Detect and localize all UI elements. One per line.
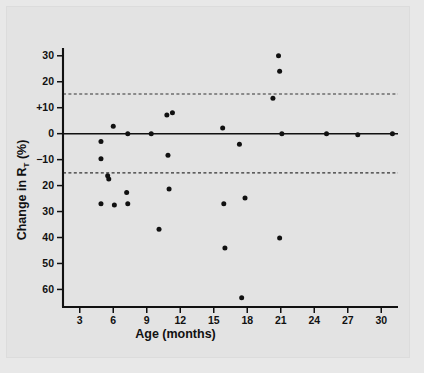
data-point: [220, 125, 225, 130]
data-point: [390, 131, 395, 136]
x-tick-label: 18: [241, 314, 253, 326]
data-point: [221, 201, 226, 206]
y-tick-label: 0: [48, 127, 54, 139]
y-axis-title-main: Change in R: [15, 167, 29, 240]
x-axis-title: Age (months): [135, 327, 216, 341]
data-point: [124, 190, 129, 195]
y-tick-label: 30: [42, 205, 54, 217]
y-tick-label: 40: [42, 231, 54, 243]
data-point: [164, 112, 169, 117]
x-tick-label: 3: [77, 314, 83, 326]
x-axis-title-text: Age (months): [135, 327, 216, 341]
data-point: [125, 201, 130, 206]
y-tick-label: 50: [42, 257, 54, 269]
data-point: [270, 96, 275, 101]
data-point: [111, 124, 116, 129]
data-point: [277, 69, 282, 74]
data-point: [239, 295, 244, 300]
x-tick-label: 24: [308, 314, 320, 326]
plot-svg: 3020+100−10203040506036912151821242730 A…: [0, 0, 424, 373]
data-point: [170, 110, 175, 115]
data-point: [165, 153, 170, 158]
data-point: [98, 139, 103, 144]
x-tick-label: 12: [174, 314, 186, 326]
data-point: [324, 131, 329, 136]
data-point: [222, 245, 227, 250]
chart-page: 3020+100−10203040506036912151821242730 A…: [0, 0, 424, 373]
data-points: [98, 53, 394, 300]
scatter-plot: 3020+100−10203040506036912151821242730 A…: [0, 0, 424, 373]
data-point: [112, 203, 117, 208]
data-point: [149, 131, 154, 136]
x-tick-label: 9: [144, 314, 150, 326]
data-point: [237, 142, 242, 147]
reference-lines: [63, 94, 398, 173]
data-point: [98, 201, 103, 206]
data-point: [98, 156, 103, 161]
y-tick-label: −10: [36, 153, 54, 165]
x-tick-label: 15: [208, 314, 220, 326]
x-tick-label: 6: [110, 314, 116, 326]
data-point: [277, 236, 282, 241]
data-point: [167, 186, 172, 191]
data-point: [106, 177, 111, 182]
y-tick-label: 20: [42, 179, 54, 191]
data-point: [276, 53, 281, 58]
x-tick-label: 27: [342, 314, 354, 326]
data-point: [243, 196, 248, 201]
tick-labels: 3020+100−10203040506036912151821242730: [36, 49, 387, 326]
y-axis-title-text: Change in RT (%): [15, 140, 31, 241]
y-tick-label: 30: [42, 49, 54, 61]
data-point: [125, 131, 130, 136]
y-axis-title: Change in RT (%): [15, 140, 31, 241]
axes: [62, 48, 398, 307]
data-point: [279, 131, 284, 136]
y-tick-label: +10: [36, 101, 54, 113]
data-point: [157, 227, 162, 232]
y-tick-label: 20: [42, 75, 54, 87]
y-tick-label: 60: [42, 283, 54, 295]
x-tick-label: 30: [375, 314, 387, 326]
y-axis-title-suffix: (%): [15, 140, 29, 163]
tick-marks: [57, 56, 381, 313]
data-point: [355, 132, 360, 137]
x-tick-label: 21: [275, 314, 287, 326]
